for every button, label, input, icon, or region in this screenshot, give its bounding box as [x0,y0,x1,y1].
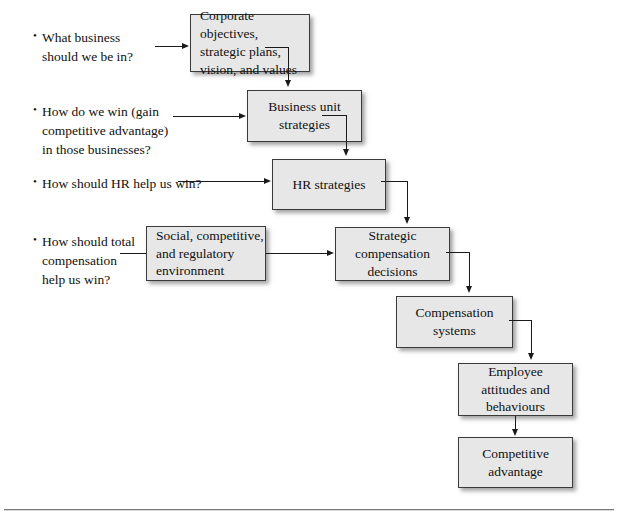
box-line: Business unit [268,99,340,114]
question-item-4: • How should total compensation help us … [33,232,135,289]
box-business-unit-strategies: Business unit strategies [247,90,362,142]
question-item-1: • What business should we be in? [33,28,133,66]
question-line: How should HR help us win? [33,174,201,193]
box-corporate-objectives: Corporate objectives, strategic plans, v… [190,14,310,72]
bullet-icon: • [33,232,37,248]
box-line: behaviours [486,399,545,414]
question-line: in those businesses? [33,140,168,159]
box-line: and regulatory [156,246,234,261]
box-line: Compensation [416,305,494,320]
box-line: strategies [279,117,330,132]
box-hr-strategies: HR strategies [272,159,386,210]
box-line: attitudes and [481,382,550,397]
bottom-divider [4,509,614,511]
box-line: Strategic [369,228,417,243]
question-item-2: • How do we win (gain competitive advant… [33,102,168,159]
box-competitive-advantage: Competitive advantage [458,437,573,488]
box-line: compensation [355,246,430,261]
question-line: How should total [33,232,135,251]
box-line: Employee [488,364,543,379]
box-line: HR strategies [292,177,365,192]
box-line: environment [156,263,224,278]
question-line: should we be in? [33,47,133,66]
box-strategic-compensation-decisions: Strategic compensation decisions [335,227,450,281]
question-line: competitive advantage) [33,121,168,140]
box-line: systems [433,323,476,338]
flowchart-canvas: • What business should we be in? • How d… [0,0,618,518]
bullet-icon: • [33,102,37,118]
box-line: decisions [367,264,417,279]
box-line: vision, and values [200,62,297,77]
bullet-icon: • [33,174,37,190]
box-line: Social, competitive, [156,228,264,243]
question-line: How do we win (gain [33,102,168,121]
box-employee-attitudes: Employee attitudes and behaviours [458,363,573,416]
box-compensation-systems: Compensation systems [396,296,513,348]
question-item-3: • How should HR help us win? [33,174,201,193]
question-line: What business [33,28,133,47]
box-line: Competitive [482,446,549,461]
bullet-icon: • [33,28,37,44]
box-line: Corporate objectives, [200,8,258,41]
question-line: help us win? [33,270,135,289]
box-line: strategic plans, [200,44,281,59]
question-line: compensation [33,251,135,270]
box-line: advantage [488,464,543,479]
box-environment: Social, competitive, and regulatory envi… [146,226,266,281]
